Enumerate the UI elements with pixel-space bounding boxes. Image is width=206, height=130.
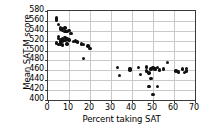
- data-point: [69, 32, 72, 35]
- y-axis-tick-label: 420: [20, 85, 44, 93]
- x-axis-tick-label: 70: [184, 104, 204, 112]
- gridline-vertical: [69, 11, 70, 100]
- data-point: [118, 74, 121, 77]
- data-point: [185, 69, 188, 72]
- data-point: [158, 68, 161, 71]
- data-point: [139, 73, 142, 76]
- y-axis-tick-mark: [45, 70, 48, 71]
- gridline-horizontal: [48, 51, 195, 52]
- data-point: [82, 43, 85, 46]
- y-axis-tick-label: 580: [20, 6, 44, 14]
- data-point: [128, 68, 131, 71]
- data-point: [162, 67, 165, 70]
- gridline-vertical: [153, 11, 154, 100]
- data-point: [55, 18, 58, 21]
- y-axis-tick-mark: [45, 80, 48, 81]
- y-axis-tick-mark: [45, 11, 48, 12]
- data-point: [147, 85, 150, 88]
- gridline-horizontal: [48, 21, 195, 22]
- y-axis-tick-label: 480: [20, 55, 44, 63]
- gridline-vertical: [90, 11, 91, 100]
- y-axis-tick-mark: [45, 90, 48, 91]
- data-point: [67, 38, 70, 41]
- y-axis-tick-mark: [45, 60, 48, 61]
- gridline-horizontal: [48, 70, 195, 71]
- plot-area: [47, 10, 196, 101]
- x-axis-tick-label: 30: [100, 104, 120, 112]
- y-axis-tick-mark: [45, 51, 48, 52]
- scatter-chart-figure: Mean SAT-M score 40042044046048050052054…: [0, 0, 206, 130]
- x-axis-tick-label: 40: [121, 104, 141, 112]
- data-point: [147, 71, 150, 74]
- x-axis-tick-label: 60: [163, 104, 183, 112]
- gridline-horizontal: [48, 80, 195, 81]
- y-axis-tick-label: 460: [20, 65, 44, 73]
- y-axis-tick-mark: [45, 31, 48, 32]
- x-axis-tick-label: 10: [58, 104, 78, 112]
- y-axis-tick-label: 560: [20, 16, 44, 24]
- y-axis-tick-mark: [45, 21, 48, 22]
- y-axis-tick-label: 400: [20, 95, 44, 103]
- data-point: [61, 43, 64, 46]
- gridline-vertical: [132, 11, 133, 100]
- y-axis-tick-mark: [45, 41, 48, 42]
- gridline-vertical: [174, 11, 175, 100]
- data-point: [166, 61, 169, 64]
- data-point: [76, 40, 79, 43]
- gridline-horizontal: [48, 60, 195, 61]
- data-point: [156, 85, 159, 88]
- x-axis-tick-label: 0: [37, 104, 57, 112]
- gridline-vertical: [111, 11, 112, 100]
- data-point: [65, 42, 68, 45]
- data-point: [151, 93, 154, 96]
- data-point: [177, 70, 180, 73]
- gridline-horizontal: [48, 90, 195, 91]
- data-point: [149, 77, 152, 80]
- y-axis-tick-label: 500: [20, 46, 44, 54]
- x-axis-tick-label: 20: [79, 104, 99, 112]
- y-axis-tick-label: 540: [20, 26, 44, 34]
- y-axis-tick-label: 520: [20, 36, 44, 44]
- y-axis-tick-label: 440: [20, 75, 44, 83]
- data-point: [116, 66, 119, 69]
- x-axis-label: Percent taking SAT: [47, 114, 196, 124]
- data-point: [88, 47, 91, 50]
- data-point: [137, 66, 140, 69]
- data-point: [63, 26, 66, 29]
- x-axis-tick-label: 50: [142, 104, 162, 112]
- data-point: [145, 65, 148, 68]
